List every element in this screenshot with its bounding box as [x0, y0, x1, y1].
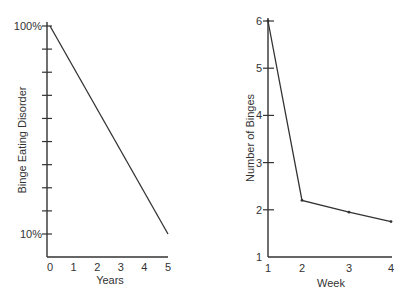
right-y-tick-label: 3 [256, 157, 262, 169]
left-y-label-top: 100% [14, 20, 42, 32]
left-x-tick-labels: 012345 [47, 261, 171, 273]
right-x-tick-label: 2 [299, 262, 305, 274]
right-data-line [268, 21, 391, 222]
right-x-tick-label: 4 [388, 262, 394, 274]
data-point-marker [301, 199, 304, 202]
left-x-axis-title: Years [96, 274, 124, 286]
right-data-markers [267, 20, 393, 223]
left-x-tick-label: 5 [165, 261, 171, 273]
right-y-tick-label: 6 [256, 15, 262, 27]
data-point-marker [348, 211, 351, 214]
data-point-marker [267, 20, 270, 23]
left-y-axis-title: Binge Eating Disorder [16, 86, 28, 193]
right-y-tick-label: 4 [256, 109, 262, 121]
left-data-line [50, 26, 168, 234]
right-y-axis-title: Number of Binges [244, 93, 256, 182]
right-x-axis-title: Week [317, 277, 345, 289]
right-y-tick-label: 2 [256, 204, 262, 216]
left-y-label-bottom: 10% [20, 228, 42, 240]
charts-canvas: 100% 10% 012345 Years Binge Eating Disor… [0, 0, 401, 300]
data-point-marker [390, 220, 393, 223]
right-chart: 123456 1234 Week Number of Binges [244, 15, 394, 289]
left-chart: 100% 10% 012345 Years Binge Eating Disor… [14, 20, 171, 286]
right-x-tick-labels: 1234 [265, 262, 394, 274]
left-x-tick-label: 4 [141, 261, 147, 273]
right-x-tick-label: 3 [346, 262, 352, 274]
right-y-tick-label: 1 [256, 251, 262, 263]
right-y-tick-label: 5 [256, 62, 262, 74]
left-x-tick-label: 0 [47, 261, 53, 273]
left-x-tick-label: 1 [71, 261, 77, 273]
right-y-ticks: 123456 [256, 15, 274, 263]
right-x-tick-label: 1 [265, 262, 271, 274]
left-x-tick-label: 2 [94, 261, 100, 273]
left-x-tick-label: 3 [118, 261, 124, 273]
